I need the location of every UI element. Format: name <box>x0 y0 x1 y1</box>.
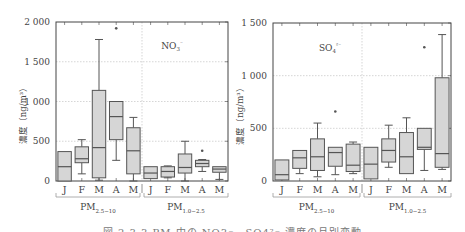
box-PM1.0-2.5-F <box>161 166 174 178</box>
box-PM2.5-10-F <box>75 140 88 174</box>
y-tick-label: 0 <box>261 176 267 186</box>
box-PM1.0-2.5-A <box>417 46 431 171</box>
x-tick-label: M <box>348 184 358 195</box>
x-tick-label: J <box>62 184 67 195</box>
chart-panel-1: 05001 0001 5002 000濃度（ng/m³）NO3⁻JFMAMPM2… <box>18 17 228 214</box>
group-label: PM1.0−2.5 <box>167 202 205 214</box>
x-tick-label: M <box>129 184 139 195</box>
figure-caption: 図 2.3.3 PM 中の NO3⁻、SO4²⁻ 濃度の月別変動 <box>0 224 465 232</box>
box-PM2.5-10-M <box>92 39 105 180</box>
y-tick-label: 500 <box>33 136 50 146</box>
box-PM1.0-2.5-M <box>400 118 414 174</box>
box-PM1.0-2.5-M <box>213 167 226 180</box>
box-plot-figure: 05001 0001 5002 000濃度（ng/m³）NO3⁻JFMAMPM2… <box>0 0 465 232</box>
group-label: PM2.5−10 <box>299 202 335 214</box>
x-tick-label: F <box>165 184 172 195</box>
y-tick-label: 1 500 <box>241 18 267 28</box>
outlier-point <box>201 149 204 152</box>
x-tick-label: J <box>279 184 284 195</box>
x-tick-label: F <box>296 184 303 195</box>
x-tick-label: M <box>180 184 190 195</box>
box-PM2.5-10-M <box>127 117 140 181</box>
x-tick-label: M <box>402 184 412 195</box>
box-PM2.5-10-A <box>109 27 122 160</box>
y-tick-label: 2 000 <box>24 17 50 27</box>
ion-label: NO3⁻ <box>161 40 183 52</box>
x-tick-label: F <box>79 184 86 195</box>
box-PM1.0-2.5-J <box>144 167 157 179</box>
box-PM1.0-2.5-M <box>435 35 449 170</box>
box-PM2.5-10-M <box>311 123 325 177</box>
outlier-point <box>115 27 118 30</box>
x-tick-label: M <box>313 184 323 195</box>
y-tick-label: 1 000 <box>241 71 267 81</box>
x-tick-label: A <box>331 184 339 195</box>
y-tick-label: 1 000 <box>24 97 50 107</box>
y-tick-label: 1 500 <box>24 57 50 67</box>
ion-label: SO4²⁻ <box>319 42 341 54</box>
box-PM1.0-2.5-A <box>195 149 208 171</box>
outlier-point <box>334 110 337 113</box>
box-PM2.5-10-A <box>328 110 342 174</box>
box-PM2.5-10-J <box>275 160 289 180</box>
box-PM1.0-2.5-J <box>364 147 378 179</box>
y-axis-label: 濃度（ng/m³） <box>18 83 28 144</box>
x-tick-label: M <box>94 184 104 195</box>
box-PM1.0-2.5-F <box>382 125 396 167</box>
x-tick-label: A <box>198 184 206 195</box>
box-PM2.5-10-F <box>293 150 307 173</box>
x-tick-label: A <box>420 184 428 195</box>
y-tick-label: 500 <box>250 123 267 133</box>
x-tick-label: J <box>368 184 373 195</box>
box-PM2.5-10-J <box>58 152 71 181</box>
group-label: PM2.5−10 <box>80 202 116 214</box>
box-PM2.5-10-M <box>346 142 360 174</box>
x-tick-label: F <box>385 184 392 195</box>
group-label: PM1.0−2.5 <box>389 202 427 214</box>
y-axis-label: 濃度（ng/m³） <box>235 83 245 144</box>
chart-panel-2: 05001 0001 500濃度（ng/m³）SO4²⁻JFMAMPM2.5−1… <box>235 18 451 214</box>
x-tick-label: M <box>437 184 447 195</box>
outlier-point <box>423 46 426 49</box>
x-tick-label: M <box>215 184 225 195</box>
y-tick-label: 0 <box>44 176 50 186</box>
x-tick-label: J <box>148 184 153 195</box>
box-PM1.0-2.5-M <box>178 141 191 181</box>
x-tick-label: A <box>112 184 120 195</box>
